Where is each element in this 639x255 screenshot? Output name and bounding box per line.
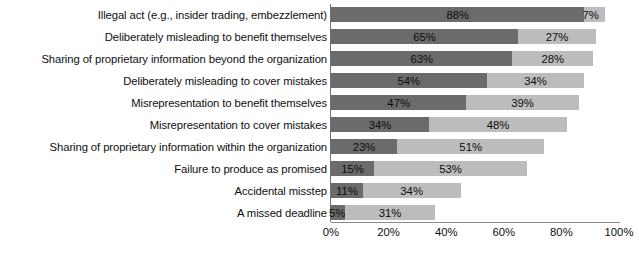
bar-segment-series-2: 28% [512,51,593,66]
bar-value-label: 51% [459,141,482,153]
bar-value-label: 28% [541,53,564,65]
stacked-bar: 47%39% [331,95,579,110]
bar-segment-series-2: 39% [466,95,578,110]
bar-value-label: 63% [410,53,433,65]
chart-row: Failure to produce as promised15%53% [331,161,619,176]
bar-value-label: 11% [336,185,358,197]
category-label: Misrepresentation to cover mistakes [150,119,327,131]
chart-row: Sharing of proprietary information withi… [331,139,619,154]
bar-value-label: 65% [413,31,436,43]
bar-segment-series-1: 65% [331,29,518,44]
bar-value-label: 34% [524,75,547,87]
stacked-bar: 15%53% [331,161,527,176]
stacked-bar: 88%7% [331,7,605,22]
bar-value-label: 48% [487,119,510,131]
bar-value-label: 34% [400,185,423,197]
stacked-bar: 34%48% [331,117,567,132]
bar-value-label: 88% [446,9,469,21]
x-tick-label: 20% [377,226,400,239]
bar-value-label: 7% [582,9,598,21]
bar-value-label: 54% [397,75,420,87]
category-label: Failure to produce as promised [174,163,327,175]
bar-segment-series-1: 23% [331,139,397,154]
bar-value-label: 31% [379,207,402,219]
bar-segment-series-2: 34% [487,73,585,88]
stacked-bar: 5%31% [331,205,435,220]
bar-segment-series-2: 34% [363,183,461,198]
category-label: A missed deadline [237,207,327,219]
stacked-bar: 54%34% [331,73,584,88]
stacked-bar-chart: Illegal act (e.g., insider trading, embe… [0,0,639,255]
bar-value-label: 15% [341,163,364,175]
bar-value-label: 39% [511,97,534,109]
x-tick-label: 80% [550,226,573,239]
bar-segment-series-2: 48% [429,117,567,132]
bar-segment-series-2: 51% [397,139,544,154]
x-axis-line [331,222,620,223]
category-label: Sharing of proprietary information beyon… [41,53,327,65]
bar-segment-series-1: 63% [331,51,512,66]
x-tick-label: 100% [605,226,634,239]
category-label: Deliberately misleading to cover mistake… [123,75,327,87]
bar-segment-series-1: 15% [331,161,374,176]
bar-value-label: 27% [546,31,569,43]
chart-row: Misrepresentation to cover mistakes34%48… [331,117,619,132]
chart-row: A missed deadline5%31% [331,205,619,220]
category-label: Accidental misstep [235,185,327,197]
chart-row: Deliberately misleading to cover mistake… [331,73,619,88]
chart-row: Accidental misstep11%34% [331,183,619,198]
stacked-bar: 23%51% [331,139,544,154]
stacked-bar: 63%28% [331,51,593,66]
bar-value-label: 47% [387,97,410,109]
x-tick-label: 40% [435,226,458,239]
stacked-bar: 65%27% [331,29,596,44]
chart-row: Illegal act (e.g., insider trading, embe… [331,7,619,22]
bar-value-label: 5% [329,207,345,219]
bar-value-label: 53% [439,163,462,175]
bar-segment-series-1: 5% [331,205,345,220]
bar-segment-series-1: 47% [331,95,466,110]
bar-segment-series-1: 11% [331,183,363,198]
bar-segment-series-2: 31% [345,205,434,220]
bar-value-label: 23% [353,141,376,153]
bar-segment-series-2: 53% [374,161,527,176]
x-tick-label: 60% [492,226,515,239]
stacked-bar: 11%34% [331,183,461,198]
chart-row: Misrepresentation to benefit themselves4… [331,95,619,110]
bar-segment-series-2: 7% [584,7,604,22]
plot-area: Illegal act (e.g., insider trading, embe… [331,0,619,222]
bar-segment-series-1: 54% [331,73,487,88]
bar-segment-series-2: 27% [518,29,596,44]
chart-row: Deliberately misleading to benefit thems… [331,29,619,44]
category-label: Misrepresentation to benefit themselves [131,97,327,109]
bar-value-label: 34% [369,119,392,131]
category-label: Deliberately misleading to benefit thems… [105,31,327,43]
category-label: Illegal act (e.g., insider trading, embe… [98,9,327,21]
bar-segment-series-1: 34% [331,117,429,132]
bar-segment-series-1: 88% [331,7,584,22]
x-tick-label: 0% [323,226,339,239]
chart-row: Sharing of proprietary information beyon… [331,51,619,66]
category-label: Sharing of proprietary information withi… [50,141,327,153]
